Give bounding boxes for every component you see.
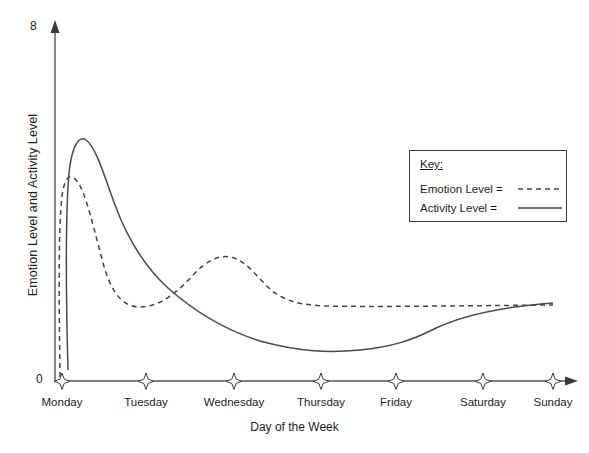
plot-area [0,0,589,453]
legend-title: Key: [420,158,566,170]
tick-star-saturday [475,373,491,390]
legend-entry-emotion-level: Emotion Level = [420,179,566,198]
legend-entry-activity-level: Activity Level = [420,198,566,217]
tick-star-sunday [545,373,561,390]
x-tick-label-tuesday: Tuesday [124,396,168,408]
legend-swatch-solid-line [516,203,564,213]
tick-star-tuesday [138,373,154,390]
x-tick-label-friday: Friday [380,396,412,408]
x-axis-title: Day of the Week [0,420,589,434]
x-axis-arrowhead [565,377,578,386]
y-axis-title: Emotion Level and Activity Level [26,85,40,325]
legend-label-activity-level: Activity Level = [420,202,516,214]
x-tick-label-monday: Monday [42,396,83,408]
x-tick-label-thursday: Thursday [297,396,345,408]
x-tick-label-sunday: Sunday [533,396,572,408]
tick-star-monday [54,373,70,390]
x-tick-label-saturday: Saturday [460,396,506,408]
y-axis-arrowhead [51,20,60,33]
y-axis-max-label: 8 [30,19,37,33]
legend-swatch-dashed-line [516,184,564,194]
chart-container: 8 0 Emotion Level and Activity Level Day… [0,0,589,453]
tick-star-thursday [313,373,329,390]
legend-label-emotion-level: Emotion Level = [420,183,516,195]
chart-legend: Key: Emotion Level = Activity Level = [409,150,567,222]
tick-star-wednesday [226,373,242,390]
y-axis-min-label: 0 [36,372,43,386]
tick-star-friday [388,373,404,390]
x-tick-label-wednesday: Wednesday [204,396,265,408]
